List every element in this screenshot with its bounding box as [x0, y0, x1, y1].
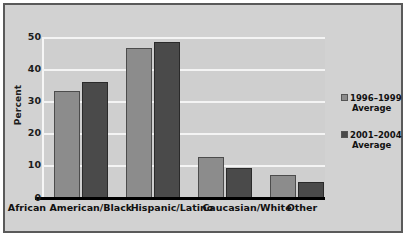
y-axis-label: Percent [13, 75, 23, 135]
legend-label-series0-line2: Average [341, 103, 408, 113]
y-tick-label: 40 [17, 64, 41, 74]
chart-legend: 1996–1999 Average 2001–2004 Average [341, 93, 408, 167]
chart-figure: 50 40 30 20 10 0 Percent African America… [0, 0, 408, 249]
legend-swatch-icon [341, 94, 348, 101]
chart-frame: 50 40 30 20 10 0 Percent African America… [3, 3, 403, 233]
bar-series0-cat2 [198, 157, 224, 198]
bar-group [52, 37, 117, 198]
bar-series1-cat2 [226, 168, 252, 198]
legend-label-series1-line1: 2001–2004 [350, 130, 402, 140]
bar-groups [42, 37, 325, 198]
bar-group [196, 37, 261, 198]
bar-series0-cat3 [270, 175, 296, 198]
bar-series1-cat0 [82, 82, 108, 198]
bar-group [268, 37, 333, 198]
y-tick-label: 50 [17, 32, 41, 42]
y-tick-label: 10 [17, 160, 41, 170]
x-axis-line [35, 197, 325, 200]
caption-strip [0, 240, 408, 249]
x-axis-ticks: African American/Black Hispanic/Latino C… [5, 202, 335, 218]
bar-series0-cat0 [54, 91, 80, 198]
bar-group [124, 37, 189, 198]
legend-swatch-icon [341, 131, 348, 138]
x-tick-label-cat3: Other [277, 202, 327, 213]
x-tick-label-cat0: African American/Black [5, 202, 135, 213]
bar-series0-cat1 [126, 48, 152, 198]
legend-entry-series1: 2001–2004 Average [341, 130, 408, 150]
bar-series1-cat3 [298, 182, 324, 198]
bar-series1-cat1 [154, 42, 180, 198]
legend-label-series0-line1: 1996–1999 [350, 93, 402, 103]
legend-label-series1-line2: Average [341, 140, 408, 150]
legend-entry-series0: 1996–1999 Average [341, 93, 408, 113]
